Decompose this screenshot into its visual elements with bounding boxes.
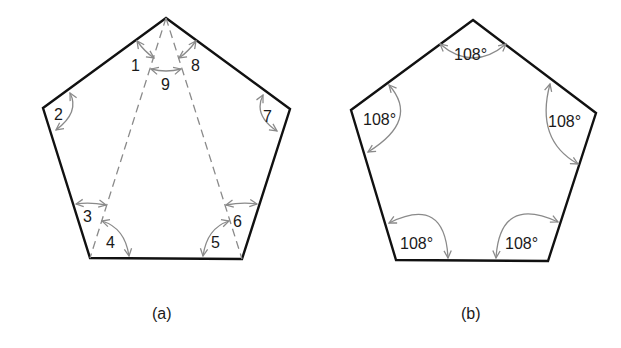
angle-label-left: 108°: [363, 111, 396, 128]
angle-label-2: 2: [54, 106, 63, 123]
figure: 1 2 3 4 5 6 7 8 9 (a) 108° 108° 108° 108…: [0, 0, 621, 348]
diagonal-left: [90, 18, 166, 258]
panel-b: 108° 108° 108° 108° 108° (b): [351, 20, 596, 322]
angle-label-7: 7: [263, 108, 272, 125]
angle-label-right: 108°: [548, 113, 581, 130]
angle-label-8: 8: [191, 57, 200, 74]
angle-label-bottom-left: 108°: [400, 235, 433, 252]
angle-label-3: 3: [83, 208, 92, 225]
caption-b: (b): [461, 305, 481, 322]
angle-label-1: 1: [131, 57, 140, 74]
angle-label-9: 9: [161, 76, 170, 93]
diagonal-right: [166, 18, 242, 259]
pentagon-a: [43, 18, 290, 259]
angle-label-bottom-right: 108°: [505, 235, 538, 252]
angle-label-4: 4: [106, 234, 115, 251]
panel-a: 1 2 3 4 5 6 7 8 9 (a): [43, 18, 290, 322]
caption-a: (a): [152, 305, 172, 322]
angle-arc-9: [151, 69, 181, 71]
angle-arc-6: [226, 203, 257, 205]
angle-label-5: 5: [211, 234, 220, 251]
angle-arc-8: [179, 41, 196, 58]
angle-arc-1: [137, 41, 154, 58]
angle-label-6: 6: [233, 213, 242, 230]
angle-label-top: 108°: [454, 46, 487, 63]
angle-arc-3: [76, 203, 106, 205]
